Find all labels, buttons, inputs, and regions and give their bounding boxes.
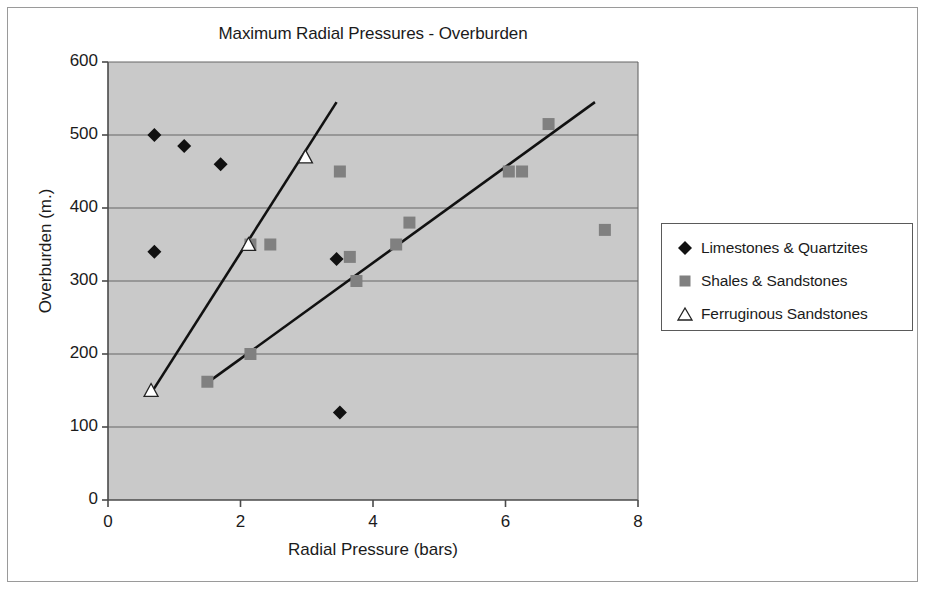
y-axis-title: Overburden (m.) (36, 121, 56, 381)
x-tick-label-2: 2 (221, 512, 261, 532)
x-tick-label-8: 8 (618, 512, 658, 532)
data-point-square-1-5 (599, 224, 611, 236)
data-point-square-1-8 (390, 239, 402, 251)
y-tick-label-0: 0 (46, 489, 98, 509)
data-point-square-1-11 (244, 348, 256, 360)
data-point-square-1-4 (403, 217, 415, 229)
data-point-square-1-10 (350, 275, 362, 287)
x-tick-label-4: 4 (353, 512, 393, 532)
data-point-square-1-7 (264, 239, 276, 251)
data-point-square-1-1 (503, 166, 515, 178)
data-point-square-1-2 (516, 166, 528, 178)
legend-square-icon (676, 272, 694, 290)
legend-item-square[interactable]: Shales & Sandstones (676, 270, 847, 292)
y-tick-label-600: 600 (46, 51, 98, 71)
data-point-square-1-3 (334, 166, 346, 178)
data-point-square-1-9 (344, 251, 356, 263)
data-point-square-1-12 (201, 376, 213, 388)
legend-item-label: Shales & Sandstones (701, 272, 847, 290)
y-tick-label-500: 500 (46, 124, 98, 144)
x-tick-label-6: 6 (486, 512, 526, 532)
legend-diamond-icon (676, 239, 694, 257)
legend-item-triangle[interactable]: Ferruginous Sandstones (676, 303, 868, 325)
y-tick-label-300: 300 (46, 270, 98, 290)
chart-figure: Maximum Radial Pressures - Overburden Ov… (0, 0, 926, 590)
legend-item-label: Limestones & Quartzites (701, 239, 868, 257)
legend-triangle-icon (676, 305, 694, 323)
legend-item-diamond[interactable]: Limestones & Quartzites (676, 237, 868, 259)
x-tick-label-0: 0 (88, 512, 128, 532)
legend-item-label: Ferruginous Sandstones (701, 305, 868, 323)
legend: Limestones & QuartzitesShales & Sandston… (661, 223, 913, 331)
x-axis-title: Radial Pressure (bars) (108, 540, 638, 560)
y-tick-label-400: 400 (46, 197, 98, 217)
y-tick-label-200: 200 (46, 343, 98, 363)
y-tick-label-100: 100 (46, 416, 98, 436)
data-point-square-1-0 (543, 118, 555, 130)
